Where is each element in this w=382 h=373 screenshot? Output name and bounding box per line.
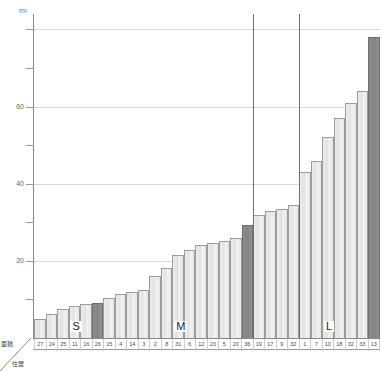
bar-slot[interactable] bbox=[207, 14, 219, 338]
bar-slot[interactable] bbox=[69, 14, 81, 338]
bar-slot[interactable] bbox=[149, 14, 161, 338]
x-tick-label: 6 bbox=[185, 339, 197, 351]
y-tick-10 bbox=[26, 299, 34, 300]
bar-slot[interactable] bbox=[115, 14, 127, 338]
bar-slot[interactable] bbox=[172, 14, 184, 338]
bar[interactable] bbox=[46, 314, 58, 338]
bar-slot[interactable] bbox=[368, 14, 380, 338]
y-tick-label-40: 40 bbox=[0, 180, 24, 187]
y-tick-label-60: 60 bbox=[0, 103, 24, 110]
bar-slot[interactable] bbox=[57, 14, 69, 338]
bar-slot[interactable] bbox=[46, 14, 58, 338]
bar-slot[interactable] bbox=[80, 14, 92, 338]
bar[interactable] bbox=[357, 91, 369, 338]
group-badge-l: L bbox=[324, 321, 334, 332]
x-tick-label: 11 bbox=[70, 339, 82, 351]
bar[interactable] bbox=[242, 225, 254, 338]
bar[interactable] bbox=[207, 243, 219, 338]
bar-slot[interactable] bbox=[161, 14, 173, 338]
bar[interactable] bbox=[138, 290, 150, 338]
bar-slot[interactable] bbox=[195, 14, 207, 338]
x-tick-label: 27 bbox=[34, 339, 47, 351]
bar[interactable] bbox=[345, 103, 357, 338]
x-tick-label: 33 bbox=[357, 339, 369, 351]
x-tick-label: 16 bbox=[81, 339, 93, 351]
bar-slot[interactable] bbox=[357, 14, 369, 338]
bar[interactable] bbox=[322, 137, 334, 338]
bar[interactable] bbox=[288, 205, 300, 339]
bar[interactable] bbox=[34, 319, 46, 338]
x-tick-label: 20 bbox=[231, 339, 243, 351]
y-tick-label-20: 20 bbox=[0, 257, 24, 264]
bar-slot[interactable] bbox=[92, 14, 104, 338]
bar[interactable] bbox=[195, 245, 207, 338]
bar[interactable] bbox=[115, 294, 127, 338]
x-tick-label: 7 bbox=[311, 339, 323, 351]
bar[interactable] bbox=[299, 172, 311, 338]
bar[interactable] bbox=[311, 161, 323, 338]
x-tick-label: 32 bbox=[346, 339, 358, 351]
y-tick-50 bbox=[26, 145, 34, 146]
bar[interactable] bbox=[92, 303, 104, 338]
bar-slot[interactable] bbox=[276, 14, 288, 338]
x-tick-label: 12 bbox=[196, 339, 208, 351]
bar[interactable] bbox=[253, 215, 265, 338]
bar-slot[interactable] bbox=[299, 14, 311, 338]
bar[interactable] bbox=[265, 211, 277, 338]
bar[interactable] bbox=[161, 268, 173, 338]
x-tick-label: 17 bbox=[265, 339, 277, 351]
y-tick-20 bbox=[26, 261, 34, 262]
x-tick-label: 25 bbox=[58, 339, 70, 351]
bar-slot[interactable] bbox=[138, 14, 150, 338]
axis-corner-captions: 面積 住居 bbox=[0, 337, 33, 373]
corner-house-label: 住居 bbox=[12, 359, 24, 368]
bar-slot[interactable] bbox=[288, 14, 300, 338]
bar-slot[interactable] bbox=[230, 14, 242, 338]
bar[interactable] bbox=[219, 241, 231, 338]
x-tick-label: 32 bbox=[288, 339, 300, 351]
bars-container bbox=[34, 14, 380, 338]
corner-area-label: 面積 bbox=[1, 339, 13, 348]
y-tick-80 bbox=[26, 29, 34, 30]
bar-slot[interactable] bbox=[311, 14, 323, 338]
bar-slot[interactable] bbox=[322, 14, 334, 338]
x-tick-label: 15 bbox=[104, 339, 116, 351]
bar[interactable] bbox=[230, 238, 242, 338]
bar[interactable] bbox=[368, 37, 380, 338]
x-tick-label: 9 bbox=[277, 339, 289, 351]
bar-slot[interactable] bbox=[34, 14, 46, 338]
x-tick-label: 36 bbox=[242, 339, 254, 351]
x-tick-label: 4 bbox=[116, 339, 128, 351]
x-tick-label: 3 bbox=[139, 339, 151, 351]
bar-slot[interactable] bbox=[334, 14, 346, 338]
bar-slot[interactable] bbox=[184, 14, 196, 338]
bar-slot[interactable] bbox=[219, 14, 231, 338]
bar-slot[interactable] bbox=[103, 14, 115, 338]
bar-slot[interactable] bbox=[126, 14, 138, 338]
bar-slot[interactable] bbox=[242, 14, 254, 338]
bar[interactable] bbox=[276, 209, 288, 338]
bar[interactable] bbox=[149, 276, 161, 338]
x-tick-label: 13 bbox=[369, 339, 381, 351]
bar[interactable] bbox=[334, 118, 346, 338]
bar[interactable] bbox=[126, 292, 138, 338]
group-badge-m: M bbox=[174, 321, 187, 332]
bar-slot[interactable] bbox=[265, 14, 277, 338]
bar-slot[interactable] bbox=[253, 14, 265, 338]
x-tick-label: 5 bbox=[219, 339, 231, 351]
x-tick-label: 10 bbox=[323, 339, 335, 351]
y-axis-unit-label: m² bbox=[19, 7, 27, 14]
bar[interactable] bbox=[103, 298, 115, 338]
x-tick-label: 1 bbox=[300, 339, 312, 351]
plot-area bbox=[34, 14, 380, 338]
bar[interactable] bbox=[80, 304, 92, 338]
bar[interactable] bbox=[57, 309, 69, 338]
x-tick-label: 19 bbox=[254, 339, 266, 351]
y-tick-60 bbox=[26, 107, 34, 108]
bar-slot[interactable] bbox=[345, 14, 357, 338]
x-tick-label: 8 bbox=[162, 339, 174, 351]
y-tick-30 bbox=[26, 222, 34, 223]
group-badge-s: S bbox=[70, 321, 81, 332]
x-tick-label: 23 bbox=[208, 339, 220, 351]
x-tick-label: 24 bbox=[47, 339, 59, 351]
